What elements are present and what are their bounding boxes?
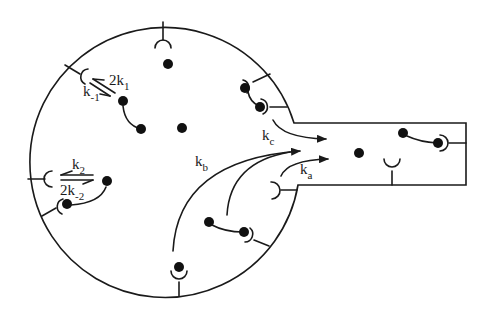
label-ka: ka	[300, 161, 313, 181]
compartment-outline	[30, 27, 466, 297]
arrow-kb-outer	[173, 151, 300, 251]
receptor-bottom	[171, 262, 187, 296]
ligand-bivalent-channel	[398, 128, 443, 148]
label-kb: kb	[195, 153, 209, 173]
receptor-channel-end	[440, 135, 466, 151]
label-k-1: k-1	[83, 83, 100, 103]
receptor-channel-bottom	[384, 159, 400, 185]
ligand-bivalent-free	[118, 96, 146, 134]
ligand-bivalent-monobound	[204, 217, 249, 237]
label-2k1: 2k1	[109, 72, 130, 92]
receptor-upper-left	[65, 65, 88, 84]
arrow-kb-inner	[227, 152, 290, 215]
label-k2: k2	[72, 156, 85, 176]
label-kc: kc	[262, 127, 275, 147]
ligand-free-center	[177, 123, 187, 133]
ligand-free-channel	[354, 148, 364, 158]
receptor-top	[155, 22, 171, 48]
ligand-free-top	[163, 59, 173, 69]
receptor-left-lower	[42, 199, 63, 216]
receptor-lower-right-empty	[271, 182, 297, 199]
diagram-canvas: 2k1 k-1 kc kb ka	[0, 0, 491, 323]
ligand-bivalent-bound-2	[240, 83, 265, 112]
